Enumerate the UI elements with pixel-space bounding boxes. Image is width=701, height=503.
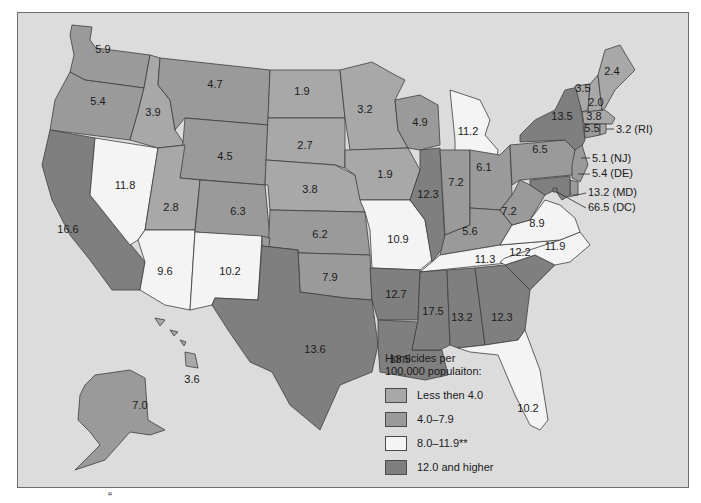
legend-swatch bbox=[385, 388, 407, 403]
footnote-mark: “ bbox=[108, 490, 112, 503]
label-ct: 5.5 bbox=[584, 122, 599, 134]
label-sd: 2.7 bbox=[297, 139, 312, 151]
label-az: 9.6 bbox=[157, 265, 172, 277]
label-va: 8.9 bbox=[529, 217, 544, 229]
legend-label: 4.0–7.9 bbox=[417, 413, 454, 425]
label-mi: 11.2 bbox=[458, 125, 479, 137]
legend-item-12-and-higher: 12.0 and higher bbox=[385, 455, 493, 479]
label-me: 2.4 bbox=[604, 65, 619, 77]
label-tn: 11.3 bbox=[475, 253, 496, 265]
state-mt bbox=[158, 58, 270, 130]
label-or: 5.4 bbox=[90, 95, 105, 107]
legend-title-line1: Homicides per bbox=[385, 352, 493, 365]
legend-item-4-to-7-9: 4.0–7.9 bbox=[385, 407, 493, 431]
label-wv: 7.2 bbox=[501, 205, 516, 217]
label-ms: 17.5 bbox=[422, 305, 443, 317]
label-mo: 10.9 bbox=[387, 233, 408, 245]
label-vt: 3.5 bbox=[575, 82, 590, 94]
label-md: 13.2 (MD) bbox=[588, 186, 637, 198]
state-hi bbox=[155, 318, 198, 368]
label-ks: 6.2 bbox=[312, 228, 327, 240]
label-ok: 7.9 bbox=[322, 271, 337, 283]
label-ak: 7.0 bbox=[132, 399, 147, 411]
label-ne: 3.8 bbox=[302, 183, 317, 195]
label-fl: 10.2 bbox=[517, 402, 538, 414]
legend-item-8-to-11-9: 8.0–11.9** bbox=[385, 431, 493, 455]
label-oh: 6.1 bbox=[476, 161, 491, 173]
label-pa: 6.5 bbox=[532, 143, 547, 155]
label-ma: 3.8 bbox=[586, 110, 601, 122]
label-nc: 11.9 bbox=[545, 240, 566, 252]
label-ut: 2.8 bbox=[163, 201, 178, 213]
state-ri bbox=[600, 124, 606, 135]
legend-label: 8.0–11.9** bbox=[417, 437, 468, 449]
state-ak bbox=[75, 370, 165, 470]
legend-swatch bbox=[385, 460, 407, 475]
state-dc bbox=[553, 188, 557, 192]
label-wa: 5.9 bbox=[95, 43, 110, 55]
state-de bbox=[570, 180, 578, 195]
label-de: 5.4 (DE) bbox=[592, 167, 633, 179]
label-co: 6.3 bbox=[230, 205, 245, 217]
label-ia: 1.9 bbox=[377, 168, 392, 180]
label-nh: 2.0 bbox=[588, 96, 603, 108]
label-ar: 12.7 bbox=[385, 288, 406, 300]
label-hi: 3.6 bbox=[184, 373, 199, 385]
legend: Homicides per 100,000 populaiton: Less t… bbox=[385, 352, 493, 479]
label-dc: 66.5 (DC) bbox=[588, 201, 636, 213]
legend-label: 12.0 and higher bbox=[417, 461, 493, 473]
label-nj: 5.1 (NJ) bbox=[592, 152, 631, 164]
label-mt: 4.7 bbox=[207, 78, 222, 90]
legend-item-less-than-4: Less then 4.0 bbox=[385, 383, 493, 407]
label-mn: 3.2 bbox=[357, 103, 372, 115]
legend-title: Homicides per 100,000 populaiton: bbox=[385, 352, 493, 378]
label-nm: 10.2 bbox=[219, 265, 240, 277]
legend-title-line2: 100,000 populaiton: bbox=[385, 365, 493, 378]
label-al: 13.2 bbox=[451, 311, 472, 323]
label-il: 12.3 bbox=[417, 188, 438, 200]
label-ca: 16.6 bbox=[57, 223, 78, 235]
label-ri: 3.2 (RI) bbox=[616, 123, 653, 135]
label-wy: 4.5 bbox=[217, 150, 232, 162]
label-sc: 12.2 bbox=[509, 246, 530, 258]
label-nv: 11.8 bbox=[115, 179, 136, 191]
legend-swatch bbox=[385, 412, 407, 427]
label-ky: 5.6 bbox=[462, 225, 477, 237]
label-tx: 13.6 bbox=[304, 343, 325, 355]
label-ny: 13.5 bbox=[551, 110, 572, 122]
us-homicide-map: 5.9 5.4 16.6 11.8 3.9 4.7 4.5 2.8 9.6 6.… bbox=[0, 0, 701, 503]
label-wi: 4.9 bbox=[412, 116, 427, 128]
state-oh bbox=[470, 145, 512, 210]
state-in bbox=[440, 150, 470, 235]
legend-label: Less then 4.0 bbox=[417, 389, 483, 401]
label-ga: 12.3 bbox=[491, 311, 512, 323]
label-in: 7.2 bbox=[448, 176, 463, 188]
legend-swatch bbox=[385, 436, 407, 451]
label-id: 3.9 bbox=[145, 106, 160, 118]
label-nd: 1.9 bbox=[294, 85, 309, 97]
